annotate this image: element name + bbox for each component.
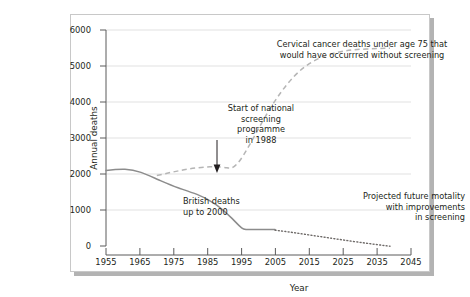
x-tick-label-1985: 1985	[191, 258, 225, 267]
y-tick-label-4000: 4000	[57, 98, 91, 107]
y-tick-label-6000: 6000	[57, 26, 91, 35]
annotation-screening-start: Start of national screening programme in…	[206, 103, 316, 145]
y-tick-label-5000: 5000	[57, 62, 91, 71]
x-tick-label-1975: 1975	[157, 258, 191, 267]
annotation-british-deaths: British deaths up to 2000	[183, 196, 283, 217]
y-axis-title: Annual deaths	[89, 93, 99, 183]
line-projected-future	[275, 230, 390, 246]
x-tick-label-1995: 1995	[225, 258, 259, 267]
y-tick-label-1000: 1000	[57, 206, 91, 215]
y-tick-label-2000: 2000	[57, 170, 91, 179]
annotation-without-screening: Cervical cancer deaths under age 75 that…	[237, 39, 470, 60]
x-tick-label-1965: 1965	[123, 258, 157, 267]
x-tick-label-1955: 1955	[89, 258, 123, 267]
x-tick-label-2035: 2035	[360, 258, 394, 267]
x-tick-label-2025: 2025	[326, 258, 360, 267]
x-tick-label-2015: 2015	[292, 258, 326, 267]
x-tick-label-2045: 2045	[394, 258, 428, 267]
x-axis-title: Year	[239, 283, 359, 293]
y-tick-label-3000: 3000	[57, 134, 91, 143]
chart-frame: 6000 5000 4000 3000 2000 1000 0 1955 196…	[70, 14, 430, 272]
annotation-projected-future: Projected future motality with improveme…	[299, 191, 465, 223]
x-tick-label-2005: 2005	[258, 258, 292, 267]
x-tick-marks	[106, 248, 411, 255]
y-tick-marks	[100, 30, 106, 246]
y-tick-label-0: 0	[57, 242, 91, 251]
